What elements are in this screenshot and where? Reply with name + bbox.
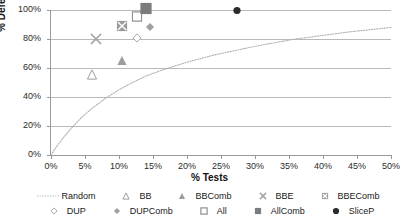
data-point-dupcomb	[145, 18, 155, 36]
random-curve	[51, 10, 391, 155]
data-point-dup	[132, 29, 142, 47]
data-point-bbe	[90, 31, 102, 49]
legend-row-1: RandomBBBBCombBBEBBEComb	[0, 188, 419, 203]
legend-entry-allcomb[interactable]: AllComb	[245, 205, 309, 217]
diamond-filled-icon	[104, 205, 130, 217]
square-filled-icon	[245, 205, 271, 217]
circle-filled-icon	[323, 205, 349, 217]
triangle-open-icon	[113, 190, 139, 202]
x-axis-tick	[153, 155, 154, 159]
cross-x-icon	[250, 190, 276, 202]
data-point-allcomb	[140, 1, 153, 19]
legend-entry-slicep[interactable]: SliceP	[323, 205, 379, 217]
legend-entry-bbe[interactable]: BBE	[250, 190, 298, 202]
x-axis-tick-label: 50%	[371, 162, 411, 171]
data-point-slicep	[232, 1, 241, 19]
legend-label: BBEComb	[338, 191, 384, 201]
legend-label: BBE	[276, 191, 298, 201]
legend-entry-bb[interactable]: BB	[113, 190, 155, 202]
y-axis-tick-label: 80%	[1, 34, 41, 43]
y-axis-tick-label: 20%	[1, 121, 41, 130]
y-axis-tick-label: 100%	[1, 5, 41, 14]
y-axis-tick-label: 60%	[1, 63, 41, 72]
triangle-filled-icon	[169, 190, 195, 202]
x-axis-tick	[51, 155, 52, 159]
x-axis-tick	[255, 155, 256, 159]
diamond-open-icon	[41, 205, 67, 217]
plot-area: 100%80%60%40%20%0% 0%5%10%15%20%25%30%35…	[50, 10, 391, 156]
square-x-icon	[312, 190, 338, 202]
legend-entry-all[interactable]: All	[191, 205, 231, 217]
legend-entry-dupcomb[interactable]: DUPComb	[104, 205, 177, 217]
legend-entry-bbcomb[interactable]: BBComb	[169, 190, 235, 202]
x-axis-tick	[357, 155, 358, 159]
x-axis-title: % Tests	[0, 172, 419, 183]
square-open-icon	[191, 205, 217, 217]
legend-label: BBComb	[195, 191, 235, 201]
legend-label: All	[217, 206, 231, 216]
y-axis-tick-label: 0%	[1, 150, 41, 159]
y-axis-tick-label: 40%	[1, 92, 41, 101]
x-axis-tick	[391, 155, 392, 159]
x-axis-tick	[85, 155, 86, 159]
data-point-bbcomb	[116, 52, 127, 70]
chart-root: % Defects 100%80%60%40%20%0% 0%5%10%15%2…	[0, 0, 419, 222]
legend-label: AllComb	[271, 206, 309, 216]
legend-label: BB	[139, 191, 155, 201]
legend-label: Random	[61, 191, 99, 201]
legend-label: DUPComb	[130, 206, 177, 216]
x-axis-tick	[289, 155, 290, 159]
legend-entry-random[interactable]: Random	[35, 190, 99, 202]
legend-label: SliceP	[349, 206, 379, 216]
x-axis-tick	[119, 155, 120, 159]
data-point-bb	[86, 66, 97, 84]
legend-row-2: DUPDUPCombAllAllCombSliceP	[0, 203, 419, 218]
legend-entry-bbecomb[interactable]: BBEComb	[312, 190, 384, 202]
x-axis-tick	[221, 155, 222, 159]
legend-label: DUP	[67, 206, 90, 216]
dotted-line-icon	[35, 190, 61, 202]
x-axis-tick	[187, 155, 188, 159]
legend-entry-dup[interactable]: DUP	[41, 205, 90, 217]
data-point-bbecomb	[116, 18, 128, 36]
x-axis-tick	[323, 155, 324, 159]
chart-legend: RandomBBBBCombBBEBBEComb DUPDUPCombAllAl…	[0, 188, 419, 218]
